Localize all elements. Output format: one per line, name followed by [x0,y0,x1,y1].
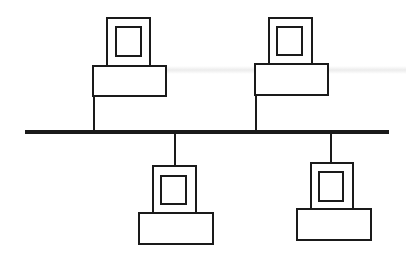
computer-base-unit-icon [255,64,328,95]
computer-node: Computer 4 [297,132,371,240]
computer-node: Computer 2 [255,18,328,132]
computer-node: Computer 3 [139,132,213,244]
computer-base-unit-icon [93,66,166,96]
monitor-screen-icon [277,27,302,55]
bus-topology-diagram: Computer 1Computer 2Computer 3Computer 4 [0,0,406,255]
computer-node: Computer 1 [93,18,166,132]
monitor-screen-icon [116,27,141,56]
monitor-screen-icon [161,176,186,204]
computer-base-unit-icon [139,213,213,244]
monitor-screen-icon [319,172,343,201]
computer-base-unit-icon [297,209,371,240]
